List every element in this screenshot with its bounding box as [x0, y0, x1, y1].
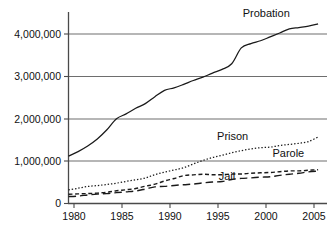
series-lines: [69, 24, 319, 197]
series-label-parole: Parole: [272, 147, 304, 159]
chart-canvas: 0 1,000,000 2,000,000 3,000,000 4,000,00…: [0, 0, 333, 240]
ytick-label-1000000: 1,000,000: [14, 155, 61, 167]
xtick-label-2000: 2000: [254, 210, 278, 222]
ytick-label-2000000: 2,000,000: [14, 113, 61, 125]
y-axis-tick-labels: 0 1,000,000 2,000,000 3,000,000 4,000,00…: [14, 28, 61, 210]
xtick-label-1990: 1990: [158, 210, 182, 222]
series-line-prison: [69, 137, 319, 190]
xtick-label-1995: 1995: [206, 210, 230, 222]
xtick-label-2005: 2005: [302, 210, 326, 222]
xtick-label-1980: 1980: [62, 210, 86, 222]
line-chart: 0 1,000,000 2,000,000 3,000,000 4,000,00…: [0, 0, 333, 240]
ytick-label-4000000: 4,000,000: [14, 28, 61, 40]
series-line-probation: [69, 24, 319, 156]
series-label-prison: Prison: [217, 130, 248, 142]
x-axis-ticks: [74, 204, 314, 209]
series-label-probation: Probation: [243, 7, 290, 19]
ytick-label-0: 0: [55, 197, 61, 209]
series-line-parole: [69, 170, 319, 195]
xtick-label-1985: 1985: [110, 210, 134, 222]
y-axis-ticks: [64, 34, 69, 204]
ytick-label-3000000: 3,000,000: [14, 70, 61, 82]
grid-lines: [68, 34, 327, 161]
series-label-jail: Jail: [219, 170, 236, 182]
series-annotations: Probation Prison Parole Jail: [217, 7, 304, 182]
x-axis-tick-labels: 1980 1985 1990 1995 2000 2005: [62, 210, 326, 222]
